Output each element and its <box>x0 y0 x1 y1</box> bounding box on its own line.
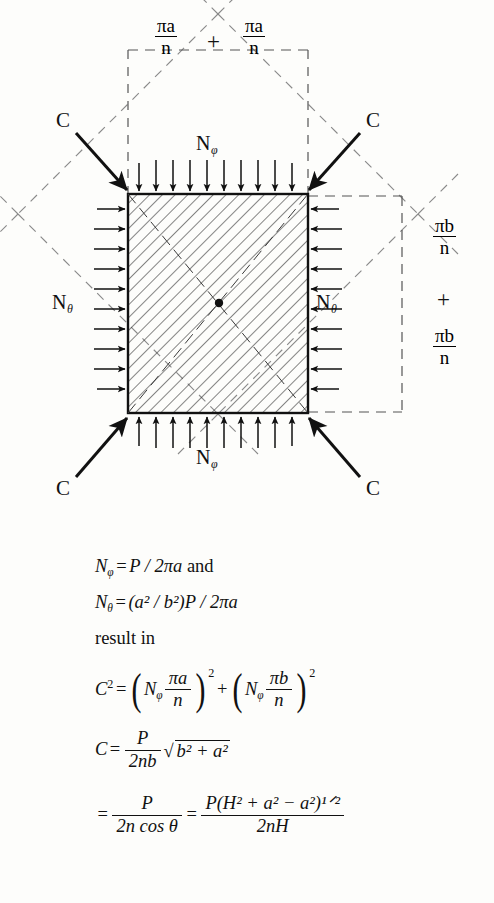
corner-arrow-bottom-left <box>76 418 127 477</box>
load-label-top: Nφ <box>196 133 218 156</box>
corner-arrow-top-right <box>309 133 360 190</box>
dimension-right-bottom-fraction: πb n <box>432 326 457 368</box>
equation-5-lhs: C <box>95 739 107 759</box>
equation-2-rhs: (a² / b²)P / 2πa <box>128 592 237 612</box>
equation-6-numerator-1: P <box>112 794 182 814</box>
panel-center-dot <box>215 299 223 307</box>
equation-1-trailing-word: and <box>187 556 214 576</box>
dimension-right-bottom-numerator: πb <box>432 326 457 346</box>
dimension-right-bottom-denominator: n <box>432 347 457 367</box>
load-arrows-top <box>139 160 292 191</box>
equation-4-plus: + <box>214 679 229 699</box>
load-label-top-subscript: φ <box>210 143 217 157</box>
equation-line-1: Nφ=P / 2πa and <box>95 557 214 578</box>
equation-4-term2-numerator: πb <box>266 669 293 689</box>
equation-6-denominator-1: 2n cos θ <box>112 816 182 836</box>
equation-line-2: Nθ=(a² / b²)P / 2πa <box>95 593 238 614</box>
corner-arrow-bottom-right <box>309 418 360 477</box>
equation-4-lhs: C <box>95 679 107 699</box>
figure-page: C C C C Nφ Nφ Nθ Nθ πa n + πa n πb <box>0 0 494 903</box>
equation-4-term1-subscript: φ <box>156 689 162 701</box>
load-arrows-bottom <box>139 417 292 448</box>
load-label-bottom-symbol: N <box>196 446 210 468</box>
radical-icon: √ <box>164 741 174 760</box>
equation-5-square-root: √ b² + a² <box>164 740 230 761</box>
left-paren-icon: ( <box>232 667 242 712</box>
equation-line-5: C= P 2nb √ b² + a² <box>95 730 230 771</box>
corner-force-label-bottom-left: C <box>56 478 70 499</box>
equation-5-denominator: 2nb <box>125 751 161 771</box>
load-label-bottom: Nφ <box>196 447 218 470</box>
dimension-right-top-numerator: πb <box>432 216 457 236</box>
equation-2-equals: = <box>113 592 128 612</box>
load-label-right-symbol: N <box>316 291 330 313</box>
equation-6-numerator-2: P(H² + a² − a²)¹ᐟ² <box>201 794 344 814</box>
equation-6-equals-2: = <box>184 804 199 824</box>
equation-1-lhs-subscript: φ <box>107 566 113 578</box>
load-label-right: Nθ <box>316 292 337 315</box>
dimension-top-left-fraction: πa n <box>154 16 178 58</box>
equation-4-term1-exponent: 2 <box>208 666 214 680</box>
equation-line-4: C2=(Nφ πa n )2+(Nφ πb n )2 <box>95 667 315 713</box>
equation-4-term2-symbol: N <box>245 679 257 699</box>
equation-4-equals: = <box>113 679 128 699</box>
dimension-top-right-numerator: πa <box>242 16 266 36</box>
equation-6-equals-1: = <box>95 804 110 824</box>
dimension-right-top-fraction: πb n <box>432 216 457 258</box>
load-label-left-subscript: θ <box>66 302 72 316</box>
dimension-right-top-denominator: n <box>432 237 457 257</box>
dimension-top-plus-sign: + <box>207 30 220 53</box>
equation-5-radicand: b² + a² <box>175 740 230 761</box>
corner-arrow-top-left <box>76 133 127 190</box>
dimension-top-right-denominator: n <box>242 37 266 57</box>
equation-4-term1-symbol: N <box>144 679 156 699</box>
load-arrows-left <box>94 209 125 389</box>
load-label-bottom-subscript: φ <box>210 457 217 471</box>
equation-4-term2-fraction: πb n <box>266 669 293 710</box>
diagram-canvas <box>0 0 494 545</box>
load-label-left: Nθ <box>52 292 73 315</box>
equation-line-6: = P 2n cos θ = P(H² + a² − a²)¹ᐟ² 2nH <box>95 795 346 836</box>
equation-1-rhs: P / 2πa <box>129 556 182 576</box>
equation-4-term2-denominator: n <box>266 690 293 710</box>
load-label-top-symbol: N <box>196 132 210 154</box>
load-label-right-subscript: θ <box>330 302 336 316</box>
right-paren-icon: ) <box>297 667 307 712</box>
dimension-top-left-numerator: πa <box>154 16 178 36</box>
equation-5-fraction: P 2nb <box>125 729 161 770</box>
dimension-top-left-denominator: n <box>154 37 178 57</box>
right-paren-icon: ) <box>196 667 206 712</box>
equation-line-3-text: result in <box>95 629 155 648</box>
dimension-bracket-top <box>128 50 308 196</box>
load-label-left-symbol: N <box>52 291 66 313</box>
equation-4-term2-exponent: 2 <box>309 666 315 680</box>
dimension-right-plus-sign: + <box>437 288 450 311</box>
equation-1-equals: = <box>114 556 129 576</box>
equation-4-term2-subscript: φ <box>257 689 263 701</box>
equation-2-lhs-symbol: N <box>95 592 107 612</box>
corner-force-label-bottom-right: C <box>366 478 380 499</box>
dimension-top-right-fraction: πa n <box>242 16 266 58</box>
force-diagram: C C C C Nφ Nφ Nθ Nθ πa n + πa n πb <box>0 0 494 545</box>
equation-4-term1-fraction: πa n <box>165 669 192 710</box>
equation-5-equals: = <box>107 739 122 759</box>
equation-6-fraction-2: P(H² + a² − a²)¹ᐟ² 2nH <box>201 794 344 835</box>
equation-4-term1-denominator: n <box>165 690 192 710</box>
equation-6-denominator-2: 2nH <box>201 816 344 836</box>
equation-block: Nφ=P / 2πa and Nθ=(a² / b²)P / 2πa resul… <box>0 545 494 903</box>
corner-force-label-top-right: C <box>366 110 380 131</box>
equation-5-numerator: P <box>125 729 161 749</box>
equation-6-fraction-1: P 2n cos θ <box>112 794 182 835</box>
equation-4-term1-numerator: πa <box>165 669 192 689</box>
equation-1-lhs-symbol: N <box>95 556 107 576</box>
left-paren-icon: ( <box>131 667 141 712</box>
corner-force-label-top-left: C <box>56 110 70 131</box>
